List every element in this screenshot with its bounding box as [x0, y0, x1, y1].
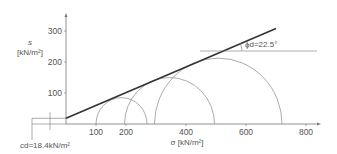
x-tick-label: 600 — [239, 127, 253, 137]
y-tick-label: 100 — [48, 88, 62, 98]
x-axis-label: σ [kN/m²] — [171, 138, 204, 147]
phi-annotation: ϕd=22.5° — [245, 40, 277, 49]
x-tick-label: 100 — [89, 127, 103, 137]
mohr-coulomb-diagram: 100200400600800100200300 s [kN/m²] σ [kN… — [0, 0, 337, 154]
mohr-circles — [96, 58, 282, 124]
y-tick-label: 200 — [48, 57, 62, 67]
y-axis-label: s — [28, 38, 32, 47]
axes: 100200400600800100200300 — [32, 13, 321, 140]
y-axis-arrow-icon — [65, 13, 68, 17]
x-axis-arrow-icon — [317, 123, 321, 126]
x-tick-label: 800 — [299, 127, 313, 137]
mohr-circle — [155, 58, 283, 124]
y-tick-label: 300 — [48, 26, 62, 36]
cohesion-annotation: cd=18.4kN/m² — [20, 141, 70, 150]
mohr-circle — [125, 78, 215, 125]
x-tick-label: 200 — [119, 127, 133, 137]
y-axis-unit: [kN/m²] — [17, 48, 43, 57]
x-tick-label: 400 — [179, 127, 193, 137]
